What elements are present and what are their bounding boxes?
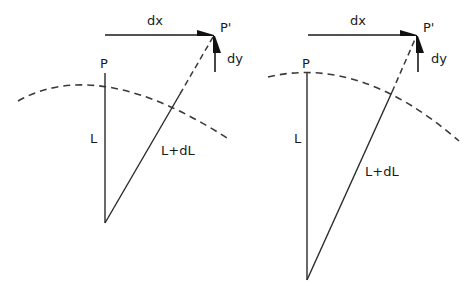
left-p-prime-label: P' [220,20,231,35]
left-dx-label: dx [147,13,163,28]
left-dashed-arc [18,85,230,140]
left-p-label: P [100,56,108,71]
right-p-label: P [302,56,310,71]
right-dx-arrowhead [400,30,417,36]
right-dy-label: dy [431,51,447,66]
right-l-label: L [294,131,302,146]
left-dx-arrowhead [197,30,214,36]
left-dy-label: dy [227,51,243,66]
right-dx-label: dx [350,13,366,28]
left-ldl-dashed [180,37,213,94]
left-ldl-solid [105,94,180,223]
left-l-label: L [90,131,98,146]
left-ldl-label: L+dL [161,143,195,158]
right-p-prime-label: P' [423,20,434,35]
left-dy-arrowhead [213,36,221,53]
diagram-canvas: dx P' dy P L L+dL dx P' dy P L L+dL [0,0,473,295]
right-dy-arrowhead [416,36,424,53]
right-ldl-dashed [392,37,416,92]
right-panel: dx P' dy P L L+dL [268,13,459,280]
right-ldl-solid [307,92,392,280]
right-ldl-label: L+dL [365,164,399,179]
left-panel: dx P' dy P L L+dL [18,13,243,223]
